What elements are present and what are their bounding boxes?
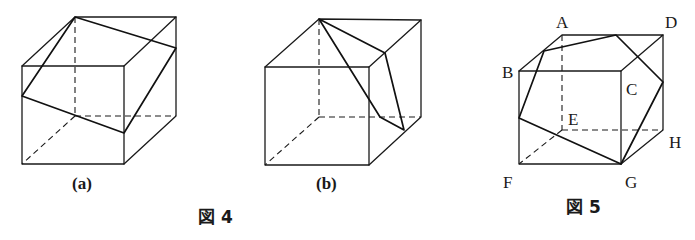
right-face-edges: [621, 35, 663, 164]
hidden-edge: [22, 116, 75, 164]
cube-a: [22, 17, 176, 164]
top-face-edges: [265, 19, 421, 67]
figure-4-caption: 図 4: [198, 207, 233, 227]
vertex-label-H: H: [669, 133, 681, 152]
subfigure-label-b: (b): [316, 174, 337, 193]
vertex-label-G: G: [625, 173, 637, 192]
vertex-label-E: E: [568, 110, 578, 129]
vertex-label-C: C: [626, 80, 637, 99]
vertex-label-B: B: [502, 63, 513, 82]
cube-b: [265, 19, 421, 165]
cube-fig5: [519, 35, 663, 164]
vertex-label-F: F: [503, 173, 512, 192]
figure-5-caption: 図 5: [566, 197, 601, 217]
vertex-label-A: A: [556, 13, 569, 32]
cross-section: [319, 19, 404, 130]
front-face: [265, 67, 369, 165]
subfigure-label-a: (a): [72, 174, 92, 193]
vertex-label-D: D: [665, 13, 677, 32]
hidden-edge: [265, 117, 319, 165]
cube-section-diagrams: (a) (b) 図 4 A B C D E F G H 図 5: [0, 0, 695, 240]
